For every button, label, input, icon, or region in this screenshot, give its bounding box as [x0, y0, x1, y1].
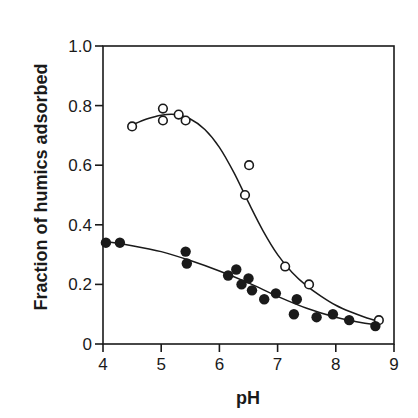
filled-circle-point [101, 237, 111, 247]
open-circle-point [159, 104, 168, 113]
filled-circle-point [271, 288, 281, 298]
x-tick-label: 5 [156, 355, 165, 374]
y-tick-label: 0.2 [68, 275, 92, 294]
y-tick-label: 1.0 [68, 37, 92, 56]
filled-circle-point [259, 294, 269, 304]
open-circle-point [241, 191, 250, 200]
filled-circle-point [311, 312, 321, 322]
fit-curves [103, 114, 379, 324]
filled-circle-point [247, 285, 257, 295]
x-tick-label: 6 [215, 355, 224, 374]
filled-circle-point [180, 246, 190, 256]
open-circle-point [245, 161, 254, 170]
x-tick-label: 8 [331, 355, 340, 374]
open-circle-point [305, 280, 314, 289]
x-axis-ticks: 456789 [98, 344, 398, 374]
filled-circle-point [344, 315, 354, 325]
y-tick-label: 0.4 [68, 216, 92, 235]
filled-circle-point [370, 321, 380, 331]
filled-circle-point [115, 237, 125, 247]
filled-circle-point [243, 273, 253, 283]
open-circle-point [128, 122, 137, 131]
filled-circle-point [182, 258, 192, 268]
open-circle-point [181, 116, 190, 125]
chart: 456789 00.20.40.60.81.0 pH Fraction of h… [0, 0, 418, 418]
filled-circle-point [231, 264, 241, 274]
y-axis-label: Fraction of humics adsorbed [31, 63, 51, 310]
y-tick-label: 0.6 [68, 156, 92, 175]
x-tick-label: 9 [389, 355, 398, 374]
open-circle-point [159, 116, 168, 125]
x-tick-label: 4 [98, 355, 107, 374]
y-tick-label: 0 [83, 335, 92, 354]
filled-circle-point [328, 309, 338, 319]
x-tick-label: 7 [273, 355, 282, 374]
y-tick-label: 0.8 [68, 97, 92, 116]
filled-circle-point [292, 294, 302, 304]
filled-circle-point [289, 309, 299, 319]
data-points [101, 104, 383, 331]
y-axis-ticks: 00.20.40.60.81.0 [68, 37, 103, 354]
x-axis-label: pH [236, 388, 260, 408]
open-circle-point [281, 262, 290, 271]
